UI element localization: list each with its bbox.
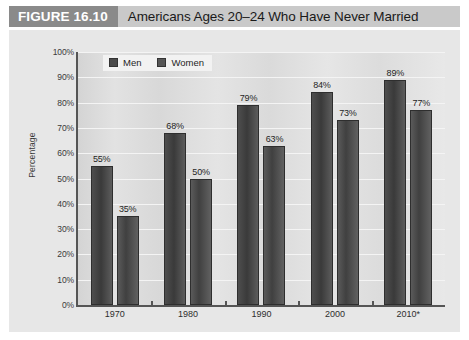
bar-value-label: 50% bbox=[192, 167, 209, 177]
x-axis-tick-mark bbox=[298, 301, 300, 307]
bar-men-1970: 55% bbox=[91, 166, 113, 305]
bar-group: 55%35% bbox=[78, 52, 151, 305]
y-axis-tick-label: 30% bbox=[40, 224, 74, 234]
y-axis-tick-label: 100% bbox=[40, 47, 74, 57]
bar-women-2000: 73% bbox=[337, 120, 359, 305]
y-axis-tick-label: 40% bbox=[40, 199, 74, 209]
chart-legend: MenWomen bbox=[103, 55, 212, 71]
figure-container: FIGURE 16.10 Americans Ages 20–24 Who Ha… bbox=[0, 0, 469, 340]
bar-value-label: 84% bbox=[313, 80, 330, 90]
y-axis-tick-label: 0% bbox=[40, 300, 74, 310]
bar-value-label: 73% bbox=[339, 108, 356, 118]
y-axis-tick-label: 60% bbox=[40, 148, 74, 158]
y-axis-tick-label: 10% bbox=[40, 275, 74, 285]
plot-series-container: 55%35%68%50%79%63%84%73%89%77% bbox=[78, 52, 445, 305]
bar-group: 84%73% bbox=[298, 52, 371, 305]
bar-value-label: 55% bbox=[93, 154, 110, 164]
bar-men-2000: 84% bbox=[311, 92, 333, 305]
bar-value-label: 79% bbox=[240, 93, 257, 103]
x-axis-tick-labels: 19701980199020002010* bbox=[78, 309, 445, 327]
legend-label: Women bbox=[171, 58, 204, 68]
legend-swatch-icon bbox=[109, 58, 118, 67]
bar-value-label: 89% bbox=[387, 68, 404, 78]
bar-women-1970: 35% bbox=[117, 216, 139, 305]
figure-number-tag: FIGURE 16.10 bbox=[9, 6, 118, 27]
x-axis-tick-label: 1970 bbox=[105, 309, 125, 319]
legend-swatch-icon bbox=[157, 58, 166, 67]
y-axis-tick-labels: 100%90%80%70%60%50%40%30%20%10%0% bbox=[36, 52, 74, 305]
y-axis-tick-label: 80% bbox=[40, 98, 74, 108]
chart-panel: Percentage 100%90%80%70%60%50%40%30%20%1… bbox=[9, 30, 460, 332]
y-axis-tick-label: 90% bbox=[40, 72, 74, 82]
x-axis-tick-label: 1990 bbox=[251, 309, 271, 319]
x-axis-tick-mark bbox=[151, 301, 153, 307]
bar-men-2010: 89% bbox=[384, 80, 406, 305]
plot-area: 55%35%68%50%79%63%84%73%89%77% bbox=[76, 52, 445, 307]
figure-title-bar: FIGURE 16.10 Americans Ages 20–24 Who Ha… bbox=[9, 6, 460, 27]
y-axis-tick-label: 20% bbox=[40, 249, 74, 259]
x-axis-tick-mark bbox=[372, 301, 374, 307]
bar-group: 89%77% bbox=[372, 52, 445, 305]
x-axis-tick-label: 2000 bbox=[325, 309, 345, 319]
x-axis-tick-label: 1980 bbox=[178, 309, 198, 319]
bar-women-1990: 63% bbox=[263, 146, 285, 305]
bar-men-1980: 68% bbox=[164, 133, 186, 305]
x-axis-tick-label: 2010* bbox=[397, 309, 421, 319]
bar-women-1980: 50% bbox=[190, 179, 212, 306]
bar-value-label: 35% bbox=[119, 204, 136, 214]
bar-value-label: 63% bbox=[266, 134, 283, 144]
bar-group: 68%50% bbox=[151, 52, 224, 305]
bar-group: 79%63% bbox=[225, 52, 298, 305]
x-axis-tick-mark bbox=[225, 301, 227, 307]
legend-item-women: Women bbox=[157, 58, 204, 68]
bar-men-1990: 79% bbox=[237, 105, 259, 305]
legend-label: Men bbox=[123, 58, 141, 68]
figure-title-text: Americans Ages 20–24 Who Have Never Marr… bbox=[118, 6, 425, 27]
legend-item-men: Men bbox=[109, 58, 141, 68]
y-axis-tick-label: 70% bbox=[40, 123, 74, 133]
y-axis-tick-label: 50% bbox=[40, 174, 74, 184]
bar-value-label: 68% bbox=[166, 121, 183, 131]
bar-value-label: 77% bbox=[413, 98, 430, 108]
bar-women-2010: 77% bbox=[410, 110, 432, 305]
